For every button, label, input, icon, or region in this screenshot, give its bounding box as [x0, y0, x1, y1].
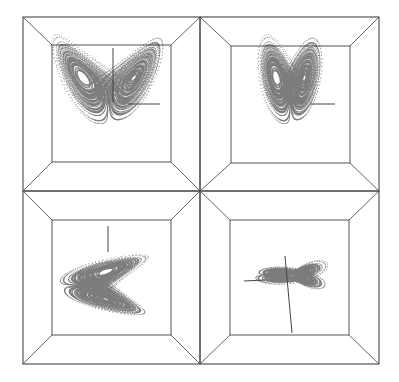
corner-connector-bottom-left — [200, 163, 231, 191]
corner-connector-top-right — [171, 191, 200, 220]
corner-connector-top-right — [350, 17, 379, 46]
corner-connector-top-left — [23, 17, 52, 45]
corner-connector-bottom-right — [350, 163, 379, 191]
attractor-point-cloud — [51, 34, 163, 124]
figure-canvas — [0, 0, 399, 382]
corner-connector-bottom-left — [23, 335, 52, 364]
corner-connector-bottom-left — [23, 162, 52, 191]
corner-connector-bottom-right — [171, 335, 200, 364]
lorenz-attractor-figure — [0, 0, 399, 382]
corner-connector-top-right — [349, 191, 379, 220]
corner-connector-top-left — [23, 191, 52, 220]
corner-connector-bottom-right — [349, 335, 379, 364]
corner-connector-top-left — [200, 191, 230, 220]
corner-connector-bottom-left — [200, 335, 230, 364]
attractor-point-cloud — [60, 254, 148, 315]
axis-line — [285, 256, 292, 333]
attractor-point-cloud — [257, 34, 323, 124]
corner-connector-top-right — [171, 17, 200, 45]
corner-connector-bottom-right — [171, 162, 200, 191]
attractor-point-cloud — [256, 260, 329, 289]
corner-connector-top-left — [200, 17, 231, 46]
